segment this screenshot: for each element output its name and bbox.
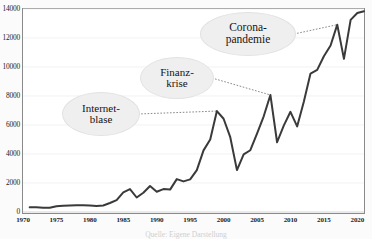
x-tick-label: 1995 xyxy=(177,216,203,225)
annotation-finanzkrise[interactable]: Finanz- krise xyxy=(140,57,214,99)
annotation-internet-blase[interactable]: Internet- blase xyxy=(62,92,140,136)
y-tick-label: 8000 xyxy=(0,92,20,100)
x-tick-label: 2000 xyxy=(211,216,237,225)
annotation-line-2: pandemie xyxy=(226,34,271,46)
x-tick-label: 1990 xyxy=(144,216,170,225)
y-tick-label: 2000 xyxy=(0,179,20,187)
x-tick-label: 1970 xyxy=(10,216,36,225)
x-tick-label: 2015 xyxy=(311,216,337,225)
y-tick-label: 12000 xyxy=(0,34,20,42)
x-tick-label: 2020 xyxy=(344,216,370,225)
x-axis-tick-labels: 1970197519801985199019952000200520102015… xyxy=(0,216,372,228)
y-tick-label: 4000 xyxy=(0,150,20,158)
annotation-corona-pandemie[interactable]: Corona- pandemie xyxy=(200,12,296,56)
x-tick-label: 2010 xyxy=(277,216,303,225)
x-tick-label: 1985 xyxy=(110,216,136,225)
x-tick-label: 1980 xyxy=(77,216,103,225)
annotation-line-2: krise xyxy=(160,78,194,89)
y-tick-label: 10000 xyxy=(0,63,20,71)
chart-figure: 02000400060008000100001200014000 1970197… xyxy=(0,0,372,239)
x-tick-label: 2005 xyxy=(244,216,270,225)
figure-caption: Quelle: Eigene Darstellung xyxy=(0,230,372,239)
annotation-line-2: blase xyxy=(82,114,120,125)
y-tick-label: 14000 xyxy=(0,5,20,13)
y-tick-label: 0 xyxy=(0,208,20,216)
y-tick-label: 6000 xyxy=(0,121,20,129)
x-tick-label: 1975 xyxy=(43,216,69,225)
